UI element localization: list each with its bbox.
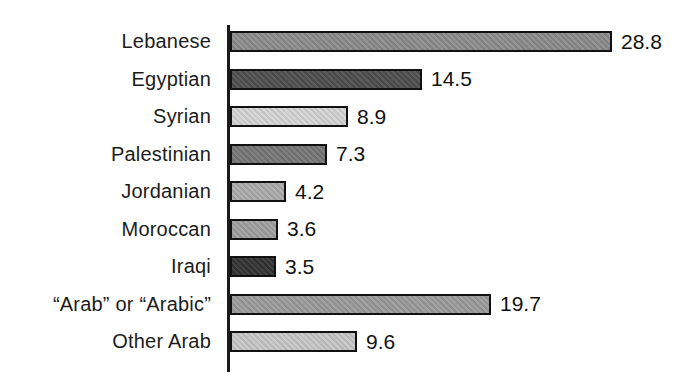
- chart-row: “Arab” or “Arabic”19.7: [0, 286, 682, 324]
- bar: [230, 256, 276, 277]
- value-label: 3.6: [287, 217, 316, 241]
- value-label: 3.5: [285, 255, 314, 279]
- category-label: Jordanian: [0, 180, 230, 203]
- chart-row: Palestinian7.3: [0, 136, 682, 174]
- category-label: “Arab” or “Arabic”: [0, 293, 230, 316]
- value-label: 9.6: [366, 330, 395, 354]
- category-label: Lebanese: [0, 30, 230, 53]
- value-label: 8.9: [357, 105, 386, 129]
- category-label: Syrian: [0, 105, 230, 128]
- bar: [230, 294, 491, 315]
- value-label: 7.3: [336, 142, 365, 166]
- value-label: 19.7: [500, 292, 541, 316]
- bar: [230, 69, 422, 90]
- bar: [230, 31, 612, 52]
- bar-chart: Lebanese28.8Egyptian14.5Syrian8.9Palesti…: [0, 0, 682, 383]
- bar: [230, 144, 327, 165]
- bar: [230, 331, 357, 352]
- chart-rows: Lebanese28.8Egyptian14.5Syrian8.9Palesti…: [0, 23, 682, 361]
- category-label: Palestinian: [0, 143, 230, 166]
- chart-row: Iraqi3.5: [0, 248, 682, 286]
- category-label: Iraqi: [0, 255, 230, 278]
- chart-row: Moroccan3.6: [0, 211, 682, 249]
- chart-row: Egyptian14.5: [0, 61, 682, 99]
- chart-row: Other Arab9.6: [0, 323, 682, 361]
- value-label: 28.8: [621, 30, 662, 54]
- category-label: Egyptian: [0, 68, 230, 91]
- bar: [230, 106, 348, 127]
- chart-row: Lebanese28.8: [0, 23, 682, 61]
- bar: [230, 181, 286, 202]
- value-label: 14.5: [431, 67, 472, 91]
- chart-row: Syrian8.9: [0, 98, 682, 136]
- chart-row: Jordanian4.2: [0, 173, 682, 211]
- bar: [230, 219, 278, 240]
- category-label: Other Arab: [0, 330, 230, 353]
- value-label: 4.2: [295, 180, 324, 204]
- category-label: Moroccan: [0, 218, 230, 241]
